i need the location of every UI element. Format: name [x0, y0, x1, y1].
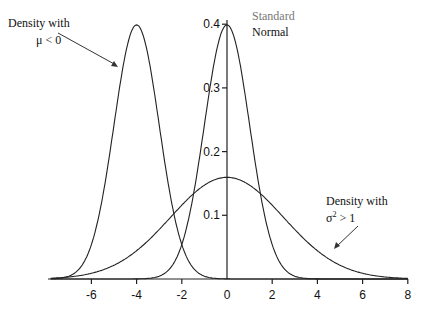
- arrow-negative-mean: [58, 33, 116, 65]
- x-tick-label: -4: [131, 288, 142, 302]
- normal-density-chart: -6-4-202468 0.10.20.30.4 Density with μ …: [0, 0, 423, 313]
- y-tick-label: 0.1: [203, 208, 220, 222]
- x-tick-label: 4: [314, 288, 321, 302]
- y-ticks: 0.10.20.30.4: [203, 17, 227, 222]
- curve-negative-mean: [51, 25, 408, 279]
- arrowhead-variance-icon: [334, 242, 340, 249]
- x-tick-label: 0: [224, 288, 231, 302]
- x-tick-label: 2: [269, 288, 276, 302]
- x-ticks: -6-4-202468: [86, 279, 411, 302]
- annotation-standard-line1: Standard: [252, 9, 295, 23]
- x-tick-label: -6: [86, 288, 97, 302]
- y-tick-label: 0.4: [203, 17, 220, 31]
- annotation-variance-line1: Density with: [326, 194, 388, 208]
- arrowhead-negative-mean-icon: [111, 61, 118, 67]
- arrow-variance: [336, 226, 358, 247]
- x-tick-label: 8: [404, 288, 411, 302]
- x-tick-label: -2: [176, 288, 187, 302]
- annotation-negative-mean-line1: Density with: [8, 16, 70, 30]
- y-tick-label: 0.3: [203, 81, 220, 95]
- curve-standard-normal: [51, 25, 408, 279]
- annotation-variance-line2: σ2 > 1: [326, 210, 355, 225]
- y-tick-label: 0.2: [203, 145, 220, 159]
- annotation-negative-mean-line2: μ < 0: [36, 33, 61, 47]
- curve-large-variance: [51, 177, 408, 278]
- x-tick-label: 6: [359, 288, 366, 302]
- annotation-standard-line2: Normal: [252, 25, 289, 39]
